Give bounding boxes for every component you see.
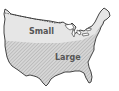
region-label-large: Large bbox=[55, 53, 81, 62]
region-label-small: Small bbox=[29, 27, 54, 36]
region-small bbox=[0, 0, 119, 43]
us-map bbox=[0, 0, 119, 91]
